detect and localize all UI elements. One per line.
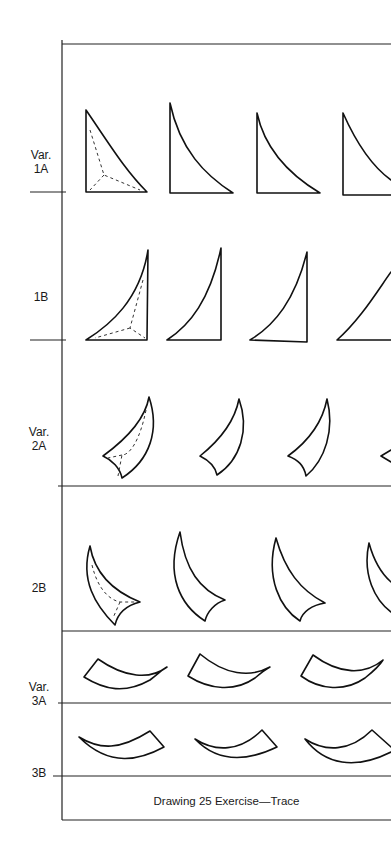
row-label-3a: Var. 3A <box>14 680 64 708</box>
row-label-1a: Var. 1A <box>16 148 66 176</box>
shape-row-2a <box>103 397 391 478</box>
shape-row-1b <box>86 248 391 342</box>
caption: Drawing 25 Exercise—Trace <box>62 795 391 807</box>
worksheet-drawing <box>0 0 391 841</box>
label-id: 2A <box>14 439 64 453</box>
row-label-1b: 1B <box>16 290 66 304</box>
row-label-2b: 2B <box>14 581 64 595</box>
label-var: Var. <box>14 680 64 694</box>
label-var: Var. <box>14 425 64 439</box>
label-id: 2B <box>14 581 64 595</box>
row-label-3b: 3B <box>14 766 64 780</box>
label-id: 3B <box>14 766 64 780</box>
shape-row-1a <box>86 103 391 195</box>
shape-row-3b <box>79 730 391 763</box>
label-id: 3A <box>14 694 64 708</box>
shape-row-3a <box>84 654 383 689</box>
label-id: 1A <box>16 162 66 176</box>
label-id: 1B <box>16 290 66 304</box>
row-label-2a: Var. 2A <box>14 425 64 453</box>
shape-row-2b <box>87 532 391 625</box>
label-var: Var. <box>16 148 66 162</box>
